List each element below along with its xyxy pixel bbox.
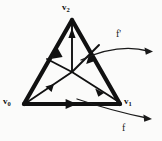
vertex-label-v1-subscript: 1 [129,100,132,107]
interior-arrowhead-up [68,28,75,38]
vertex-label-v1: v1 [124,97,132,106]
segment-leftedge-b [47,59,72,72]
vertex-label-v2: v2 [62,3,70,12]
simplex-diagram-canvas [0,0,162,141]
map-arrow-label-f-prime: f' [116,29,121,39]
edge-v2-v1 [72,20,120,104]
figure-container: v2 v0 v1 f' f [0,0,162,141]
vertex-label-v0-subscript: 0 [8,100,11,107]
vertex-label-v0-base: v [3,96,8,106]
vertex-label-v2-subscript: 2 [67,6,70,13]
map-arrow-label-f: f [122,123,125,133]
edge-v0-v2 [24,20,72,104]
edge-arrowhead-v0-v1 [66,99,77,109]
vertex-label-v2-base: v [62,2,67,12]
vertex-label-v1-base: v [124,96,129,106]
vertex-label-v0: v0 [3,97,11,106]
